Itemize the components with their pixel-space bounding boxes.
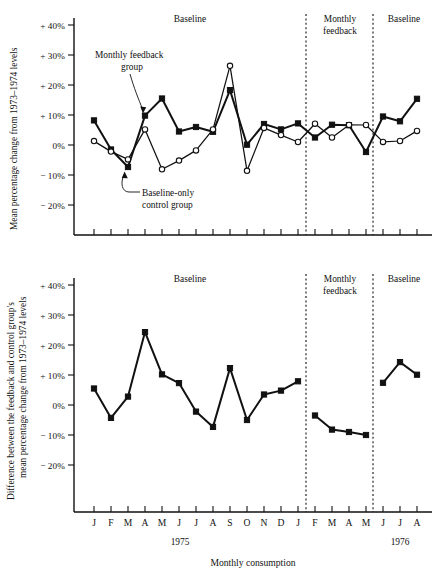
- region-label-baseline-1: Baseline: [174, 14, 206, 24]
- annotation-feedback-group-line2: group: [121, 62, 143, 72]
- region-label-baseline-2-bottom: Baseline: [388, 274, 420, 284]
- bottom-panel: Difference between the feedback and cont…: [6, 274, 432, 568]
- bottom-panel-y-ticks: [68, 285, 74, 465]
- x-tick-label: J: [92, 517, 96, 528]
- x-tick-label: J: [177, 517, 181, 528]
- y-tick-label: 0%: [53, 141, 66, 151]
- y-tick-label: + 10%: [40, 111, 65, 121]
- top-panel-y-tick-labels: + 40% + 30% + 20% + 10% 0% − 10% − 20%: [40, 21, 65, 211]
- y-tick-label: − 20%: [40, 201, 65, 211]
- x-tick-label: D: [278, 517, 285, 528]
- series-line-difference: [94, 332, 417, 435]
- x-tick-label: S: [227, 517, 232, 528]
- x-tick-label: M: [158, 517, 167, 528]
- x-tick-label: J: [296, 517, 300, 528]
- x-tick-label: M: [362, 517, 371, 528]
- annotation-arrow-feedback: [140, 107, 146, 114]
- bottom-panel-y-axis-label-line2: mean percentage change from 1973–1974 le…: [18, 296, 28, 478]
- x-tick-label: J: [194, 517, 198, 528]
- top-panel-x-ticks: [94, 229, 417, 235]
- region-label-baseline-2: Baseline: [388, 14, 420, 24]
- x-tick-label: J: [381, 517, 385, 528]
- annotation-control-group-line1: Baseline-only: [142, 188, 194, 198]
- top-panel-y-ticks: [68, 25, 74, 205]
- y-tick-label: − 20%: [40, 461, 65, 471]
- two-panel-line-chart: Mean percentage change from 1973–1974 le…: [0, 0, 436, 576]
- x-tick-label: J: [398, 517, 402, 528]
- bottom-panel-x-ticks: [94, 506, 417, 512]
- bottom-panel-y-axis-label-line1: Difference between the feedback and cont…: [6, 302, 16, 500]
- x-tick-label: M: [328, 517, 337, 528]
- y-tick-label: + 40%: [40, 281, 65, 291]
- bottom-panel-x-tick-labels: J F M A M J J A S O N D J F M A M J J A: [92, 517, 420, 528]
- annotation-arrow-control: [122, 172, 128, 179]
- x-tick-label: M: [124, 517, 133, 528]
- x-tick-label: O: [244, 517, 251, 528]
- region-label-monthly-feedback-line1-bottom: Monthly: [324, 274, 357, 284]
- region-label-monthly-feedback-line2: feedback: [323, 26, 357, 36]
- y-tick-label: + 20%: [40, 81, 65, 91]
- y-tick-label: + 20%: [40, 341, 65, 351]
- x-tick-label: A: [142, 517, 149, 528]
- annotation-control-group-line2: control group: [142, 200, 193, 210]
- y-tick-label: + 10%: [40, 371, 65, 381]
- y-tick-label: + 30%: [40, 311, 65, 321]
- figure-container: Mean percentage change from 1973–1974 le…: [0, 0, 436, 576]
- x-tick-label: F: [108, 517, 113, 528]
- x-tick-label: A: [210, 517, 217, 528]
- top-panel: Mean percentage change from 1973–1974 le…: [9, 14, 432, 235]
- x-tick-label: N: [261, 517, 268, 528]
- y-tick-label: 0%: [53, 401, 66, 411]
- bottom-panel-y-tick-labels: + 40% + 30% + 20% + 10% 0% − 10% − 20%: [40, 281, 65, 471]
- x-tick-label: F: [312, 517, 317, 528]
- y-tick-label: + 30%: [40, 51, 65, 61]
- series-markers-control-group: [91, 63, 419, 173]
- annotation-leader-feedback: [130, 74, 143, 110]
- x-axis-title: Monthly consumption: [210, 557, 295, 568]
- region-label-monthly-feedback-line1: Monthly: [324, 14, 357, 24]
- x-tick-label: A: [346, 517, 353, 528]
- y-tick-label: − 10%: [40, 431, 65, 441]
- region-label-monthly-feedback-line2-bottom: feedback: [323, 286, 357, 296]
- y-tick-label: + 40%: [40, 21, 65, 31]
- year-label-1976: 1976: [391, 537, 410, 547]
- y-tick-label: − 10%: [40, 171, 65, 181]
- top-panel-y-axis-label: Mean percentage change from 1973–1974 le…: [9, 47, 19, 230]
- year-label-1975: 1975: [171, 537, 190, 547]
- region-label-baseline-1-bottom: Baseline: [174, 274, 206, 284]
- annotation-feedback-group-line1: Monthly feedback: [95, 50, 164, 60]
- x-tick-label: A: [414, 517, 421, 528]
